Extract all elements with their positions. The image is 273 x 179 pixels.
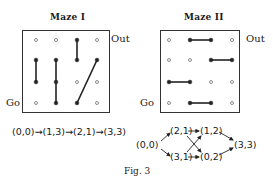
maze2-board — [161, 31, 240, 113]
grid-dot — [55, 39, 58, 42]
maze2-go-label: Go — [140, 97, 154, 108]
maze1-go-label: Go — [6, 97, 20, 108]
grid-dot — [35, 102, 38, 105]
maze1-walls — [36, 40, 97, 103]
graph-node-start: (0,0) — [136, 139, 159, 150]
grid-dot — [231, 39, 234, 42]
grid-dot — [168, 102, 171, 105]
maze-wall — [77, 60, 97, 103]
grid-dot — [76, 81, 79, 84]
maze2-out-label: Out — [246, 33, 265, 44]
figure-caption: Fig. 3 — [124, 166, 150, 176]
grid-dot — [189, 59, 192, 62]
grid-dot — [96, 102, 99, 105]
maze2-grid-dots — [167, 38, 234, 105]
grid-dot — [168, 59, 171, 62]
graph-node-top2: (1,2) — [200, 125, 223, 136]
maze1-solution-path: (0,0)→(1,3)→(2,1)→(3,3) — [12, 126, 126, 137]
graph-node-bot2: (0,2) — [200, 151, 223, 162]
maze1-grid-dots — [34, 38, 99, 105]
graph-node-end: (3,3) — [234, 139, 257, 150]
maze-drawings — [0, 0, 273, 179]
maze2-walls — [169, 40, 232, 103]
grid-dot — [168, 39, 171, 42]
grid-dot — [231, 102, 234, 105]
maze1-out-label: Out — [111, 33, 130, 44]
grid-dot — [35, 39, 38, 42]
graph-node-top1: (2,1) — [170, 125, 193, 136]
maze1-board — [23, 31, 110, 113]
grid-dot — [96, 81, 99, 84]
grid-dot — [96, 39, 99, 42]
grid-dot — [210, 81, 213, 84]
graph-node-bot1: (3,1) — [170, 151, 193, 162]
grid-dot — [231, 81, 234, 84]
